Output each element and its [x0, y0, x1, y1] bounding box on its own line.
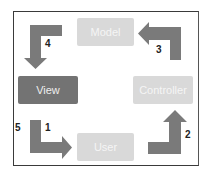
model-node: Model	[77, 18, 134, 46]
view-node: View	[18, 76, 78, 104]
arrow-1-icon	[30, 120, 72, 159]
step-1-label: 1	[45, 122, 51, 133]
user-node: User	[77, 133, 134, 161]
controller-node: Controller	[133, 76, 193, 104]
step-2-label: 2	[185, 129, 191, 140]
view-label: View	[36, 84, 60, 96]
model-label: Model	[91, 26, 121, 38]
step-4-label: 4	[45, 38, 51, 49]
arrow-4-icon	[24, 25, 62, 69]
step-5-label: 5	[15, 122, 21, 133]
arrow-2-icon	[148, 110, 187, 154]
step-3-label: 3	[156, 44, 162, 55]
user-label: User	[94, 141, 117, 153]
controller-label: Controller	[139, 84, 187, 96]
